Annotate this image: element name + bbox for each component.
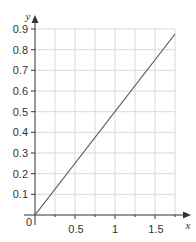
svg-text:0.2: 0.2 [13,168,28,180]
y-axis-label: y [25,10,31,22]
x-axis-arrow-icon [183,212,191,219]
svg-text:0.3: 0.3 [13,147,28,159]
svg-text:0.5: 0.5 [13,106,28,118]
x-axis-label: x [185,219,191,231]
svg-text:0.7: 0.7 [13,64,28,76]
svg-text:0.6: 0.6 [13,85,28,97]
svg-text:0.8: 0.8 [13,44,28,56]
svg-text:0.9: 0.9 [13,23,28,35]
svg-text:0.4: 0.4 [13,126,28,138]
svg-text:0.1: 0.1 [13,188,28,200]
svg-text:1: 1 [112,223,118,235]
svg-text:1.5: 1.5 [148,223,163,235]
svg-text:0.5: 0.5 [68,223,83,235]
origin-label: 0 [26,216,32,228]
y-tick-labels: 0.9 0.8 0.7 0.6 0.5 0.4 0.3 0.2 0.1 [13,23,28,200]
data-line [35,34,175,215]
line-chart: 0.9 0.8 0.7 0.6 0.5 0.4 0.3 0.2 0.1 0.5 … [0,0,196,242]
x-tick-labels: 0.5 1 1.5 [68,223,163,235]
y-axis-arrow-icon [32,15,39,23]
